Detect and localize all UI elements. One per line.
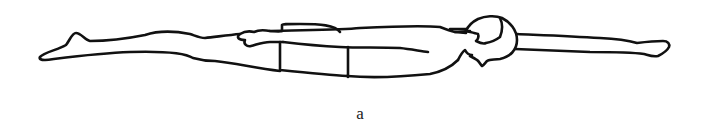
swimmer-figure: a	[0, 0, 713, 131]
figure-caption: a	[350, 104, 370, 124]
legs-outline	[40, 32, 240, 58]
swim-trunks-outline	[280, 24, 348, 77]
hand-at-hip-outline	[238, 30, 283, 46]
extended-arms-outline	[515, 34, 669, 56]
arm-outline	[270, 26, 470, 32]
